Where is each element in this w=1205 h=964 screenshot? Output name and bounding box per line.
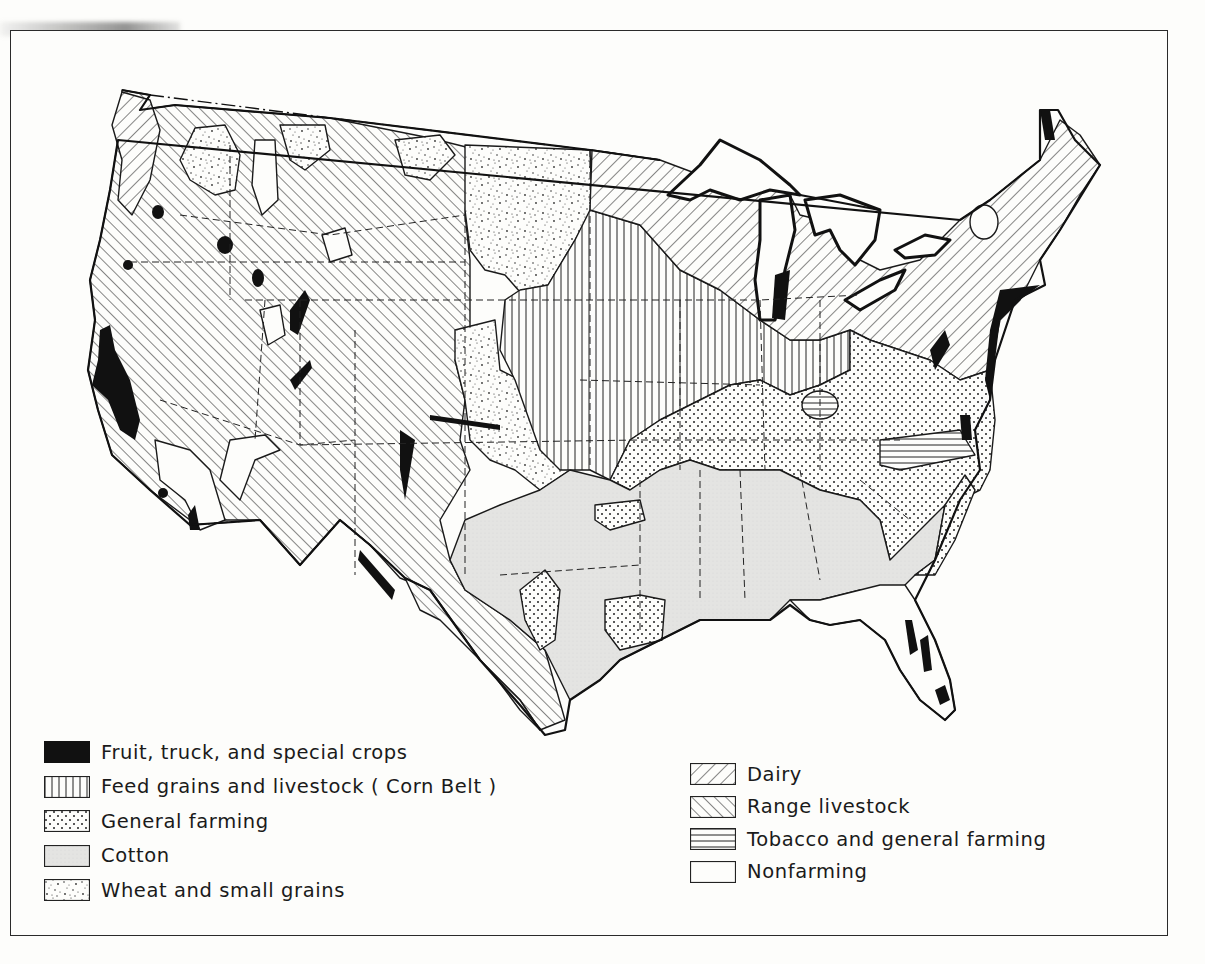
legend-left: Fruit, truck, and special crops Feed gra… (44, 735, 497, 908)
legend-label-range: Range livestock (747, 795, 910, 818)
legend-item-feed: Feed grains and livestock ( Corn Belt ) (44, 770, 497, 805)
legend-label-nonfarming: Nonfarming (747, 860, 868, 883)
legend-label-fruit: Fruit, truck, and special crops (101, 741, 408, 764)
swatch-blank-icon (690, 861, 736, 883)
legend-label-feed: Feed grains and livestock ( Corn Belt ) (101, 775, 497, 798)
fruit-yakima (152, 205, 164, 219)
legend-label-wheat: Wheat and small grains (101, 879, 345, 902)
fruit-socal (158, 488, 168, 498)
legend-label-dairy: Dairy (747, 763, 802, 786)
legend-item-fruit: Fruit, truck, and special crops (44, 735, 497, 770)
legend-item-nonfarming: Nonfarming (690, 856, 1046, 889)
swatch-solid-black-icon (44, 741, 90, 763)
legend-item-general: General farming (44, 804, 497, 839)
legend-item-range: Range livestock (690, 791, 1046, 824)
fruit-delmarva (960, 415, 972, 440)
swatch-regular-dots-icon (44, 810, 90, 832)
swatch-horizontal-lines-icon (690, 828, 736, 850)
legend-item-wheat: Wheat and small grains (44, 873, 497, 908)
swatch-forwardslash-hatch-icon (690, 796, 736, 818)
region-florida (790, 585, 955, 720)
legend-label-cotton: Cotton (101, 844, 170, 867)
legend-item-tobacco: Tobacco and general farming (690, 823, 1046, 856)
swatch-gray-stipple-icon (44, 845, 90, 867)
fruit-maine (1040, 110, 1055, 140)
swatch-backslash-hatch-icon (690, 763, 736, 785)
swatch-vertical-lines-icon (44, 776, 90, 798)
legend-label-general: General farming (101, 810, 269, 833)
fruit-snake-river (217, 236, 233, 254)
legend-right: Dairy Range livestock Tobacco and genera… (690, 758, 1046, 888)
legend-item-cotton: Cotton (44, 839, 497, 874)
fruit-idaho (252, 269, 264, 287)
legend-item-dairy: Dairy (690, 758, 1046, 791)
swatch-random-stipple-icon (44, 879, 90, 901)
legend-label-tobacco: Tobacco and general farming (747, 828, 1046, 851)
